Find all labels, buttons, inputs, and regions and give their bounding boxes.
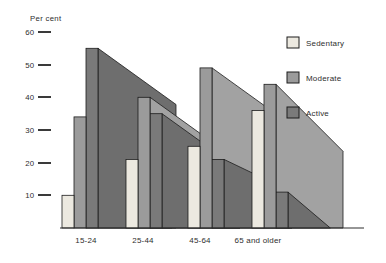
legend-swatch-active	[287, 107, 299, 118]
y-tick-label: 50	[25, 61, 34, 70]
legend-swatch-moderate	[287, 72, 299, 83]
legend-label-moderate: Moderate	[306, 74, 342, 83]
y-tick-50: 50	[25, 61, 51, 70]
legend-item-sedentary: Sedentary	[287, 37, 344, 48]
bar-active-45-64	[212, 159, 224, 228]
bar-active-65 and older	[276, 192, 288, 228]
bar-moderate-65 and older	[264, 84, 276, 228]
chart-figure: Per cent 60 50 40 30 20	[0, 0, 386, 263]
x-label-65-and-older: 65 and older	[235, 236, 282, 245]
bar-moderate-25-44	[138, 97, 150, 228]
y-tick-label: 60	[25, 28, 34, 37]
y-tick-20: 20	[25, 159, 51, 168]
x-label-15-24: 15-24	[75, 236, 97, 245]
legend-item-active: Active	[287, 107, 329, 118]
legend-swatch-sedentary	[287, 37, 299, 48]
x-label-45-64: 45-64	[189, 236, 211, 245]
bars-layer	[62, 48, 343, 228]
y-tick-label: 40	[25, 93, 34, 102]
y-tick-label: 20	[25, 159, 34, 168]
y-tick-30: 30	[25, 126, 51, 135]
bar-sedentary-25-44	[126, 159, 138, 228]
bar-sedentary-45-64	[188, 146, 200, 228]
bar-active-15-24	[86, 48, 98, 228]
bar-sedentary-15-24	[62, 195, 74, 228]
legend-label-active: Active	[306, 109, 329, 118]
x-axis-labels: 15-24 25-44 45-64 65 and older	[75, 236, 281, 245]
y-tick-label: 30	[25, 126, 34, 135]
y-tick-40: 40	[25, 93, 51, 102]
bar-sedentary-65 and older	[252, 110, 264, 228]
bar-moderate-45-64	[200, 68, 212, 228]
x-label-25-44: 25-44	[132, 236, 154, 245]
y-tick-60: 60	[25, 28, 51, 37]
y-tick-10: 10	[25, 191, 51, 200]
bar-active-25-44	[150, 114, 162, 228]
y-axis-ticks: 60 50 40 30 20 10	[25, 28, 51, 200]
legend-item-moderate: Moderate	[287, 72, 342, 83]
legend-label-sedentary: Sedentary	[306, 39, 344, 48]
y-axis-title: Per cent	[30, 14, 62, 23]
y-tick-label: 10	[25, 191, 34, 200]
chart-canvas: Per cent 60 50 40 30 20	[0, 0, 386, 263]
bar-moderate-15-24	[74, 117, 86, 228]
